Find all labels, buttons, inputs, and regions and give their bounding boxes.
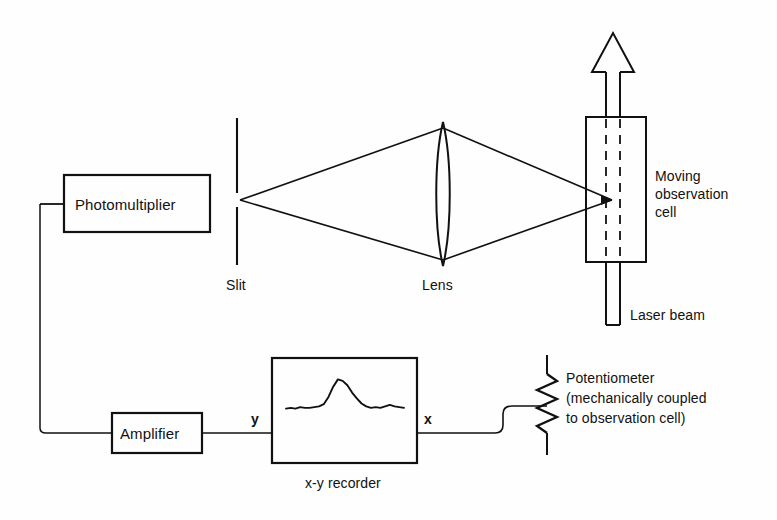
recorder-y-axis-label: y <box>251 411 259 427</box>
apparatus-schematic: Slit Lens Moving observation cell <box>0 0 777 520</box>
recorder-label: x-y recorder <box>305 475 381 491</box>
scattering-peak-trace <box>286 379 404 408</box>
diagram-canvas: Slit Lens Moving observation cell <box>0 0 777 520</box>
potentiometer-label-line-2: (mechanically coupled <box>566 390 707 406</box>
cell-label-line-2: observation <box>655 186 728 202</box>
potentiometer-label-line-3: to observation cell) <box>566 410 686 426</box>
cell-label-line-1: Moving <box>655 168 701 184</box>
slit-label: Slit <box>226 277 246 293</box>
amplifier-label: Amplifier <box>120 425 179 442</box>
lens-element <box>436 122 450 266</box>
lens-label: Lens <box>422 277 453 293</box>
xy-recorder-box <box>272 358 417 463</box>
wire-recorder-to-potentiometer <box>417 406 547 433</box>
signal-wire-pmt-to-amplifier <box>40 204 112 433</box>
light-cone-rays <box>240 128 612 260</box>
observation-cell <box>586 117 646 262</box>
photomultiplier-label: Photomultiplier <box>75 196 176 213</box>
cell-label-line-3: cell <box>655 204 676 220</box>
recorder-x-axis-label: x <box>424 411 432 427</box>
potentiometer-label-line-1: Potentiometer <box>566 370 655 386</box>
beam-exit-arrow-icon <box>592 33 634 72</box>
laser-beam-label: Laser beam <box>630 307 705 323</box>
potentiometer-symbol <box>537 355 557 455</box>
